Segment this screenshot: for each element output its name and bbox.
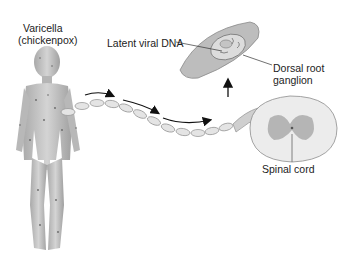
label-dorsal-root: Dorsal root [273,62,324,74]
label-latent-viral-dna: Latent viral DNA [107,37,183,49]
label-varicella: Varicella [23,22,63,34]
spinal-cord [250,96,337,162]
label-chickenpox: (chickenpox) [18,34,78,46]
ganglion-inset [176,22,272,78]
label-spinal-cord: Spinal cord [262,163,315,175]
child-figure [16,46,80,250]
sensory-nerve [61,99,262,136]
label-ganglion: ganglion [273,74,313,86]
